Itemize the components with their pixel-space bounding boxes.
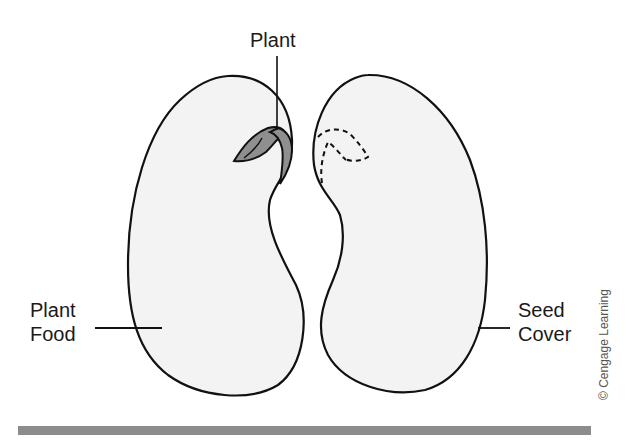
right-seed-half: [313, 75, 487, 392]
label-plant-food: Plant Food: [30, 298, 110, 346]
bean-seed-diagram: Plant Plant Food Seed Cover © Cengage Le…: [0, 0, 631, 443]
label-seed-cover: Seed Cover: [518, 298, 598, 346]
diagram-graphic: [0, 0, 631, 443]
label-plant: Plant: [250, 28, 296, 52]
label-plant-food-line2: Food: [30, 322, 110, 346]
label-seed-cover-line1: Seed: [518, 298, 598, 322]
label-plant-food-line1: Plant: [30, 298, 110, 322]
bottom-divider-bar: [18, 426, 591, 435]
copyright-notice: © Cengage Learning: [597, 289, 611, 400]
label-seed-cover-line2: Cover: [518, 322, 598, 346]
